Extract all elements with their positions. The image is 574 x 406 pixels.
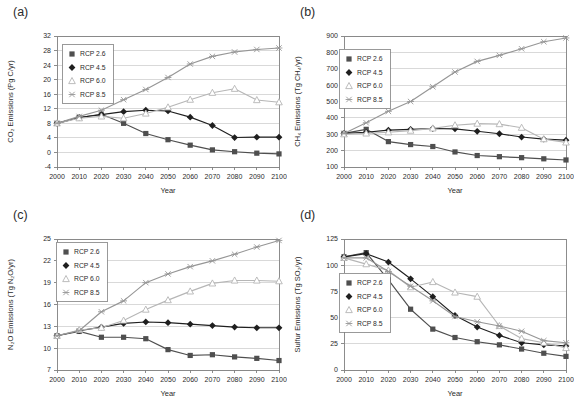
x-tick-label: 2070: [205, 376, 221, 383]
x-tick-label: 2050: [160, 173, 176, 180]
marker-diamond-filled-icon: [496, 130, 503, 137]
x-tick-label: 2070: [205, 173, 221, 180]
marker-square-filled-icon: [165, 347, 170, 352]
y-tick-label: 16: [43, 301, 51, 308]
x-tick-label: 2060: [182, 376, 198, 383]
y-tick-label: 8: [47, 120, 51, 127]
x-tick-label: 2060: [469, 173, 485, 180]
y-axis-title: CO₂ Emissions (Pg C/yr): [6, 60, 15, 143]
legend-label: RCP 8.5: [357, 320, 383, 327]
marker-square-filled-icon: [210, 352, 215, 357]
x-axis: 2000201020202030204020502060207020802090…: [336, 167, 574, 180]
y-tick-label: 75: [330, 288, 338, 295]
x-tick-label: 2040: [138, 376, 154, 383]
x-tick-label: 2100: [271, 173, 287, 180]
x-axis-title: Year: [447, 389, 463, 398]
marker-diamond-filled-icon: [496, 332, 503, 339]
marker-square-filled-icon: [254, 151, 259, 156]
y-axis: 7101316192225: [43, 235, 57, 373]
series-rcp-2-6: [54, 329, 281, 363]
y-axis: -4048121620242832: [43, 32, 57, 170]
panel-d: (d) 025507510012520002010202020302040205…: [287, 203, 574, 406]
y-tick-label: 12: [43, 105, 51, 112]
marker-square-filled-icon: [276, 358, 281, 363]
x-tick-label: 2000: [336, 376, 352, 383]
legend-label: RCP 4.5: [74, 262, 100, 269]
marker-square-filled-icon: [63, 249, 68, 254]
marker-triangle-open-icon: [452, 289, 459, 295]
y-axis-title: CH₄ Emissions (Tg CH₄/yr): [293, 56, 302, 147]
marker-x-star-icon: [385, 109, 392, 114]
y-tick-label: 7: [47, 366, 51, 373]
marker-square-filled-icon: [188, 143, 193, 148]
x-tick-label: 2080: [514, 173, 530, 180]
chart-ch4: 1002003004005006007008009002000201020202…: [287, 0, 574, 203]
y-tick-label: 0: [334, 366, 338, 373]
x-tick-label: 2050: [160, 376, 176, 383]
panel-b: (b) 100200300400500600700800900200020102…: [287, 0, 574, 203]
x-tick-label: 2080: [227, 173, 243, 180]
marker-diamond-filled-icon: [209, 322, 216, 329]
marker-x-star-icon: [253, 47, 260, 52]
x-tick-label: 2010: [358, 173, 374, 180]
marker-square-filled-icon: [121, 335, 126, 340]
y-axis-title: Sulfur Emissions (Tg SO₂/yr): [293, 256, 302, 352]
x-tick-label: 2080: [227, 376, 243, 383]
y-tick-label: 16: [43, 91, 51, 98]
x-axis: 2000201020202030204020502060207020802090…: [49, 167, 287, 180]
marker-square-filled-icon: [541, 351, 546, 356]
y-tick-label: 20: [43, 76, 51, 83]
marker-triangle-open-icon: [120, 317, 127, 323]
x-tick-label: 2020: [94, 173, 110, 180]
marker-x-star-icon: [209, 54, 216, 59]
marker-square-filled-icon: [121, 121, 126, 126]
marker-square-filled-icon: [430, 144, 435, 149]
legend-label: RCP 6.0: [74, 275, 100, 282]
legend-label: RCP 4.5: [357, 69, 383, 76]
marker-square-filled-icon: [519, 346, 524, 351]
y-tick-label: 100: [326, 262, 338, 269]
chart-co2: -404812162024283220002010202020302040205…: [0, 0, 287, 203]
x-axis-title: Year: [160, 389, 176, 398]
marker-triangle-open-icon: [430, 278, 437, 284]
marker-x-star-icon: [165, 271, 172, 276]
x-tick-label: 2010: [71, 376, 87, 383]
marker-square-filled-icon: [563, 157, 568, 162]
x-tick-label: 2010: [358, 376, 374, 383]
y-tick-label: 700: [326, 65, 338, 72]
x-tick-label: 2100: [271, 376, 287, 383]
marker-diamond-filled-icon: [165, 319, 172, 326]
marker-diamond-filled-icon: [276, 324, 283, 331]
y-tick-label: 24: [43, 62, 51, 69]
legend-label: RCP 2.6: [74, 248, 100, 255]
marker-x-star-icon: [142, 280, 149, 285]
legend-label: RCP 6.0: [357, 306, 383, 313]
marker-diamond-filled-icon: [253, 134, 260, 141]
panel-label-c: (c): [13, 208, 28, 222]
marker-square-filled-icon: [497, 154, 502, 159]
marker-square-filled-icon: [497, 342, 502, 347]
marker-x-star-icon: [231, 252, 238, 257]
x-tick-label: 2090: [536, 173, 552, 180]
legend-label: RCP 8.5: [74, 289, 100, 296]
marker-diamond-filled-icon: [231, 324, 238, 331]
y-tick-label: 100: [326, 163, 338, 170]
marker-square-filled-icon: [254, 356, 259, 361]
y-tick-label: 125: [326, 235, 338, 242]
marker-x-star-icon: [452, 69, 459, 74]
x-tick-label: 2060: [469, 376, 485, 383]
y-tick-label: 50: [330, 314, 338, 321]
marker-diamond-filled-icon: [187, 114, 194, 121]
marker-triangle-open-icon: [254, 97, 261, 103]
marker-square-filled-icon: [408, 307, 413, 312]
y-tick-label: 0: [47, 149, 51, 156]
x-tick-label: 2090: [536, 376, 552, 383]
chart-n2o: 7101316192225200020102020203020402050206…: [0, 203, 287, 406]
marker-x-star-icon: [518, 46, 525, 51]
x-tick-label: 2080: [514, 376, 530, 383]
marker-x-star-icon: [231, 49, 238, 54]
marker-square-filled-icon: [210, 147, 215, 152]
panel-a: (a) -40481216202428322000201020202030204…: [0, 0, 287, 203]
y-tick-label: 300: [326, 131, 338, 138]
y-tick-label: -4: [45, 163, 51, 170]
